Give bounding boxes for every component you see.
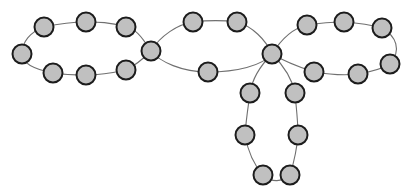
graph-node: [281, 166, 300, 185]
graph-node: [305, 63, 324, 82]
graph-node: [117, 61, 136, 80]
graph-node: [35, 18, 54, 37]
graph-node: [199, 63, 218, 82]
graph-node: [77, 13, 96, 32]
graph-node: [117, 18, 136, 37]
graph-node: [286, 84, 305, 103]
graph-diagram: [0, 0, 415, 195]
graph-node: [241, 84, 260, 103]
graph-node: [254, 166, 273, 185]
graph-node: [228, 13, 247, 32]
graph-node: [373, 19, 392, 38]
graph-node: [13, 45, 32, 64]
graph-node: [289, 126, 308, 145]
graph-node: [349, 65, 368, 84]
graph-node: [184, 13, 203, 32]
graph-node: [335, 13, 354, 32]
edges-layer: [22, 21, 396, 181]
graph-node: [236, 126, 255, 145]
nodes-layer: [13, 13, 400, 185]
hub-node: [263, 45, 282, 64]
graph-node: [44, 64, 63, 83]
graph-node: [381, 55, 400, 74]
hub-node: [142, 42, 161, 61]
graph-node: [298, 16, 317, 35]
bottom-loop-edge: [245, 54, 298, 181]
graph-node: [77, 66, 96, 85]
